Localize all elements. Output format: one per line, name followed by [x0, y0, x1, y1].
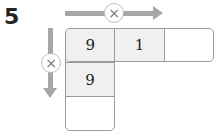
multiply-icon-vertical: ×: [41, 53, 61, 73]
arrow-right-icon: [153, 6, 163, 20]
column-cell-2: 9: [66, 62, 114, 96]
row-cell-answer[interactable]: [164, 29, 213, 61]
column-cell-answer[interactable]: [66, 96, 114, 130]
row-cell-1: 9: [66, 29, 114, 61]
problem-number: 5: [4, 4, 19, 29]
row-grid: 9 1: [65, 28, 214, 62]
arrow-down-icon: [43, 88, 57, 98]
multiply-icon-horizontal: ×: [104, 3, 124, 23]
row-cell-2: 1: [114, 29, 163, 61]
